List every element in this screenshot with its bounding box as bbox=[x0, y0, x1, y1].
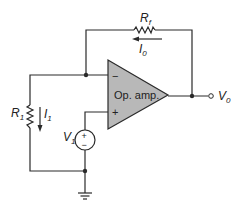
source-label: V1 bbox=[63, 130, 75, 146]
feedback-wire-right bbox=[155, 30, 192, 96]
feedback-resistor bbox=[134, 27, 155, 33]
source-minus-sign: − bbox=[82, 140, 87, 150]
output-terminal bbox=[209, 94, 214, 99]
arrow-down-icon bbox=[38, 125, 43, 132]
input-current-label: I1 bbox=[44, 107, 52, 123]
feedback-current-label: I0 bbox=[139, 42, 147, 58]
inverting-input-sign: − bbox=[112, 70, 118, 82]
junction-dot bbox=[83, 169, 87, 173]
junction-dot bbox=[84, 73, 88, 77]
input-resistor-label: R1 bbox=[11, 106, 24, 122]
op-amp-label: Op. amp. bbox=[114, 89, 159, 101]
feedback-resistor-label: Rf bbox=[140, 11, 152, 27]
noninverting-input-wire bbox=[85, 112, 108, 130]
noninverting-input-sign: + bbox=[112, 106, 118, 118]
circuit-diagram: Rf I0 Op. amp. − + V0 R1 I1 + − V1 bbox=[0, 0, 241, 211]
arrow-left-icon bbox=[132, 37, 139, 42]
ground-icon bbox=[78, 193, 92, 199]
input-resistor bbox=[27, 105, 33, 128]
output-label: V0 bbox=[218, 89, 231, 105]
inverting-input-wire bbox=[30, 75, 108, 105]
junction-dot bbox=[190, 94, 194, 98]
